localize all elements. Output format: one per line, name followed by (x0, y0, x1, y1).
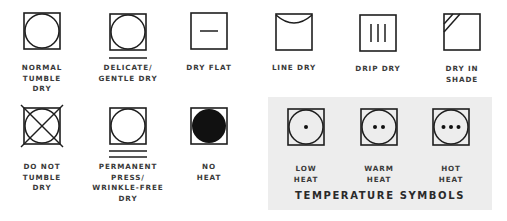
dry-in-shade-label: DRY IN SHADE (417, 64, 507, 85)
no-heat-label: NO HEAT (164, 162, 254, 183)
drip-dry-label: DRIP DRY (333, 64, 423, 75)
permanent-press-label: PERMANENT PRESS/ WRINKLE-FREE DRY (83, 162, 173, 204)
delicate-gentle-dry-icon (109, 13, 147, 51)
no-heat-icon (190, 107, 228, 145)
temperature-symbols-title: TEMPERATURE SYMBOLS (268, 190, 492, 201)
hot-heat-label: HOT HEAT (406, 164, 496, 185)
permanent-press-icon (109, 107, 147, 145)
line-dry-label: LINE DRY (249, 63, 339, 74)
normal-tumble-dry-label: NORMAL TUMBLE DRY (0, 63, 87, 95)
dry-in-shade-icon (443, 13, 481, 51)
line-dry-icon (275, 13, 313, 51)
dry-flat-icon (190, 12, 228, 50)
warm-heat-icon (360, 108, 398, 146)
normal-tumble-dry-icon (23, 12, 61, 50)
low-heat-icon (287, 108, 325, 146)
hot-heat-icon (432, 108, 470, 146)
delicate-gentle-dry-label: DELICATE/ GENTLE DRY (83, 63, 173, 84)
drip-dry-icon (359, 14, 397, 52)
do-not-tumble-dry-icon (23, 107, 61, 145)
do-not-tumble-dry-label: DO NOT TUMBLE DRY (0, 162, 87, 194)
dry-flat-label: DRY FLAT (164, 63, 254, 74)
